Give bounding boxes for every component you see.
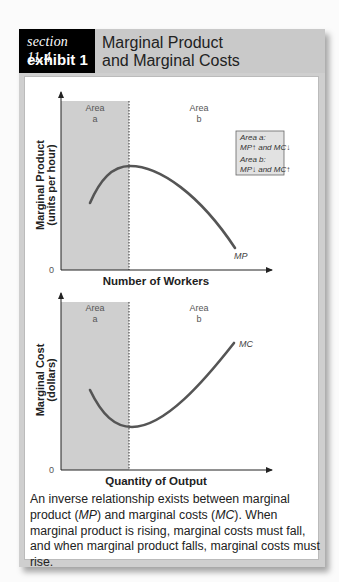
caption-text-2: ) and marginal costs ( bbox=[97, 508, 215, 522]
mp-y-axis-title-line2: (units per hour) bbox=[45, 144, 57, 226]
area-b-label-line1: Area bbox=[189, 303, 208, 313]
area-a-label-line2: a bbox=[92, 114, 97, 124]
mc-curve-label: MC bbox=[239, 339, 253, 349]
area-a-label-line1: Area bbox=[85, 303, 104, 313]
area-a-shade bbox=[61, 302, 129, 470]
area-b-label-line2: b bbox=[196, 114, 201, 124]
area-a-label-line1: Area bbox=[85, 103, 104, 113]
mc-x-axis-title: Quantity of Output bbox=[105, 475, 207, 487]
legend-area-b-label: Area b: bbox=[239, 155, 266, 164]
legend-area-a-text: MP↑ and MC↓ bbox=[240, 143, 290, 152]
origin-label: 0 bbox=[49, 465, 54, 475]
area-b-label-line2: b bbox=[196, 314, 201, 324]
caption-mp: MP bbox=[79, 508, 97, 522]
caption-mc: MC bbox=[215, 508, 234, 522]
mc-y-axis-title-line2: (dollars) bbox=[45, 358, 57, 402]
mp-chart: Area a Area b MP 0 Number of Workers Mar… bbox=[34, 92, 290, 287]
mp-curve-label: MP bbox=[234, 251, 248, 261]
area-a-label-line2: a bbox=[92, 314, 97, 324]
mp-x-axis-title: Number of Workers bbox=[103, 275, 210, 287]
mc-chart: Area a Area b MC 0 Quantity of Output Ma… bbox=[34, 293, 272, 487]
area-a-shade bbox=[61, 101, 129, 270]
legend-area-a-label: Area a: bbox=[239, 133, 266, 142]
legend-area-b-text: MP↓ and MC↑ bbox=[240, 165, 290, 174]
exhibit-caption: An inverse relationship exists between m… bbox=[30, 492, 320, 571]
area-b-label-line1: Area bbox=[189, 103, 208, 113]
origin-label: 0 bbox=[49, 265, 54, 275]
